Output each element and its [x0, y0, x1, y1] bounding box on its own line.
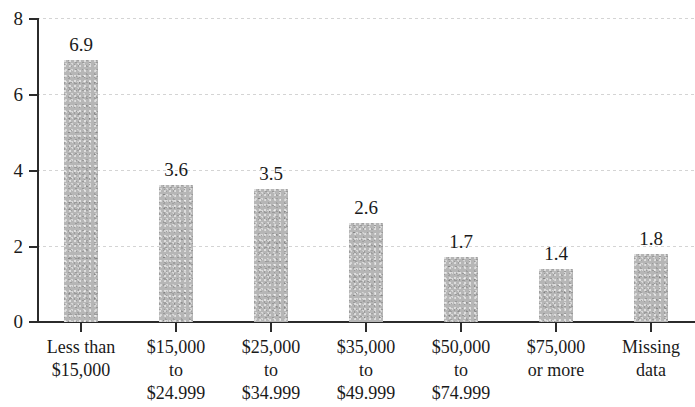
value-label-7: 1.8 — [621, 229, 681, 248]
category-label-7: Missing data — [596, 336, 695, 382]
gridline-6 — [37, 94, 695, 95]
category-label-4-line-2: to — [311, 359, 421, 382]
category-label-1-line-2: $15,000 — [26, 359, 136, 382]
bar-2[interactable] — [159, 185, 193, 322]
bar-7[interactable] — [634, 254, 668, 322]
y-tick-label-8: 8 — [0, 9, 23, 28]
x-tick-mark-1 — [80, 323, 82, 332]
y-tick-label-6: 6 — [0, 85, 23, 104]
x-tick-mark-4 — [365, 323, 367, 332]
category-label-6: $75,000 or more — [501, 336, 611, 382]
bar-chart: 8 6 4 2 0 6.9 3.6 3.5 2.6 1.7 1.4 1.8 Le… — [0, 0, 695, 407]
y-tick-label-4: 4 — [0, 161, 23, 180]
category-label-2-line-2: to — [121, 359, 231, 382]
category-label-5-line-2: to — [406, 359, 516, 382]
category-label-2-line-3: $24.999 — [121, 382, 231, 405]
category-label-5: $50,000 to $74.999 — [406, 336, 516, 405]
category-label-5-line-3: $74.999 — [406, 382, 516, 405]
category-label-3: $25,000 to $34.999 — [216, 336, 326, 405]
value-label-6: 1.4 — [526, 244, 586, 263]
category-label-2-line-1: $15,000 — [121, 336, 231, 359]
bar-4[interactable] — [349, 223, 383, 322]
bar-6[interactable] — [539, 269, 573, 322]
category-label-5-line-1: $50,000 — [406, 336, 516, 359]
x-tick-mark-2 — [175, 323, 177, 332]
category-label-2: $15,000 to $24.999 — [121, 336, 231, 405]
category-label-4-line-3: $49.999 — [311, 382, 421, 405]
y-tick-label-2: 2 — [0, 237, 23, 256]
x-tick-mark-3 — [270, 323, 272, 332]
category-label-1-line-1: Less than — [26, 336, 136, 359]
category-label-3-line-1: $25,000 — [216, 336, 326, 359]
y-tick-mark-6 — [29, 94, 38, 96]
bar-5[interactable] — [444, 257, 478, 322]
category-label-1: Less than $15,000 — [26, 336, 136, 382]
x-tick-mark-7 — [650, 323, 652, 332]
value-label-3: 3.5 — [241, 164, 301, 183]
category-label-6-line-1: $75,000 — [501, 336, 611, 359]
bar-3[interactable] — [254, 189, 288, 322]
value-label-4: 2.6 — [336, 198, 396, 217]
category-label-4: $35,000 to $49.999 — [311, 336, 421, 405]
category-label-3-line-2: to — [216, 359, 326, 382]
x-tick-mark-5 — [460, 323, 462, 332]
plot-area: 8 6 4 2 0 6.9 3.6 3.5 2.6 1.7 1.4 1.8 Le… — [0, 0, 695, 407]
y-tick-mark-2 — [29, 246, 38, 248]
y-tick-mark-8 — [29, 18, 38, 20]
y-tick-mark-4 — [29, 170, 38, 172]
bar-1[interactable] — [64, 60, 98, 322]
value-label-1: 6.9 — [51, 35, 111, 54]
value-label-2: 3.6 — [146, 160, 206, 179]
gridline-8 — [37, 18, 695, 19]
category-label-6-line-2: or more — [501, 359, 611, 382]
gridline-4 — [37, 170, 695, 171]
y-tick-label-0: 0 — [0, 312, 23, 331]
category-label-3-line-3: $34.999 — [216, 382, 326, 405]
category-label-7-line-2: data — [596, 359, 695, 382]
x-tick-mark-6 — [555, 323, 557, 332]
category-label-4-line-1: $35,000 — [311, 336, 421, 359]
value-label-5: 1.7 — [431, 232, 491, 251]
category-label-7-line-1: Missing — [596, 336, 695, 359]
